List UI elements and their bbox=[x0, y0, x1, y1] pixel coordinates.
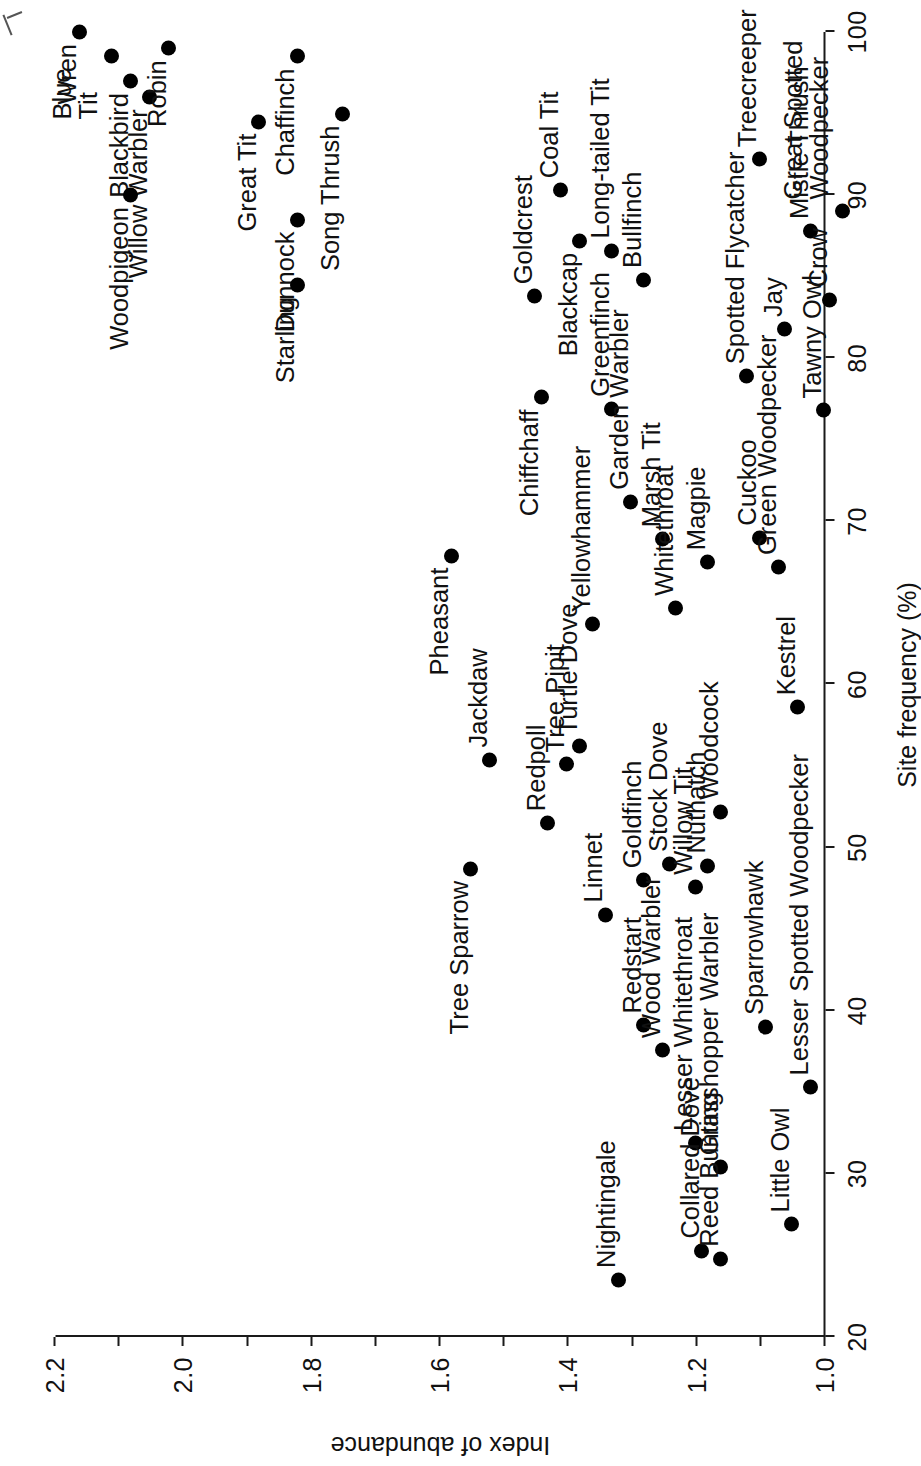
x-tick-label: 100 bbox=[842, 10, 871, 53]
y-tick-label: 1.6 bbox=[426, 1357, 455, 1393]
y-tick bbox=[53, 1337, 55, 1346]
x-tick-label: 20 bbox=[842, 1323, 871, 1352]
data-point-label: Linnet bbox=[580, 833, 606, 902]
data-point-label: Nightingale bbox=[593, 1140, 619, 1268]
data-point-label: Goldfinch bbox=[619, 761, 645, 869]
data-point-label: Stock Dove bbox=[644, 722, 670, 852]
data-point bbox=[597, 907, 612, 922]
data-point bbox=[572, 739, 587, 754]
y-tick bbox=[631, 1337, 633, 1346]
data-point-label: Little Owl bbox=[766, 1108, 792, 1213]
data-point-label: Blackcap bbox=[555, 253, 581, 356]
data-point-label: Robin bbox=[144, 60, 170, 127]
y-tick bbox=[374, 1337, 376, 1346]
data-point bbox=[539, 816, 554, 831]
y-tick bbox=[181, 1337, 183, 1346]
data-point bbox=[835, 204, 850, 219]
data-point-label: Great Tit bbox=[234, 134, 260, 232]
y-tick-label: 1.8 bbox=[297, 1357, 326, 1393]
y-tick-label: 2.2 bbox=[41, 1357, 70, 1393]
x-tick bbox=[825, 519, 834, 521]
data-point bbox=[668, 600, 683, 615]
data-point bbox=[289, 212, 304, 227]
data-point-label: Whitethroat bbox=[651, 465, 677, 595]
data-point-label: Lesser Spotted Woodpecker bbox=[786, 754, 812, 1075]
data-point bbox=[443, 548, 458, 563]
data-point-label: Tawny Owl bbox=[798, 275, 824, 398]
data-point-label: Yellowhammer bbox=[567, 446, 593, 612]
data-point bbox=[161, 41, 176, 56]
data-point-label: Great SpottedWoodpecker bbox=[779, 41, 831, 200]
data-point bbox=[251, 114, 266, 129]
y-tick bbox=[566, 1337, 568, 1346]
y-axis-title: Index of abundance bbox=[330, 1431, 550, 1460]
y-tick bbox=[759, 1337, 761, 1346]
data-point-label: Woodpigeon bbox=[105, 207, 131, 350]
data-point-label: Wood Warbler bbox=[638, 876, 664, 1038]
y-tick-label: 1.4 bbox=[554, 1357, 583, 1393]
data-point bbox=[713, 1251, 728, 1266]
data-point-label: Starling bbox=[272, 297, 298, 383]
data-point bbox=[815, 403, 830, 418]
x-tick bbox=[825, 846, 834, 848]
x-tick bbox=[825, 30, 834, 32]
data-point bbox=[655, 1042, 670, 1057]
data-point-label: Kestrel bbox=[773, 616, 799, 695]
data-point bbox=[462, 861, 477, 876]
data-point bbox=[584, 617, 599, 632]
scan-artifact-mark-2 bbox=[6, 11, 22, 19]
data-point bbox=[803, 1080, 818, 1095]
data-point bbox=[610, 1272, 625, 1287]
data-point-label: BlueTit bbox=[48, 68, 100, 119]
y-tick bbox=[117, 1337, 119, 1346]
data-point-label: Garden Warbler bbox=[606, 309, 632, 489]
data-point-label: Bullfinch bbox=[619, 172, 645, 268]
x-tick-label: 50 bbox=[842, 833, 871, 862]
data-point-label: Redpoll bbox=[523, 725, 549, 811]
data-point-label: Song Thrush bbox=[317, 126, 343, 272]
x-axis-title: Site frequency (%) bbox=[892, 582, 921, 788]
y-tick bbox=[823, 1337, 825, 1346]
y-tick bbox=[502, 1337, 504, 1346]
plot-area: 2030405060708090100 1.01.21.41.61.82.02.… bbox=[55, 32, 825, 1337]
data-point bbox=[103, 49, 118, 64]
y-tick bbox=[246, 1337, 248, 1346]
y-tick-label: 1.0 bbox=[811, 1357, 840, 1393]
data-point bbox=[71, 25, 86, 40]
y-tick bbox=[438, 1337, 440, 1346]
x-tick bbox=[825, 1335, 834, 1337]
x-tick bbox=[825, 683, 834, 685]
x-tick-label: 70 bbox=[842, 507, 871, 536]
data-point bbox=[623, 494, 638, 509]
data-point-label: Goldcrest bbox=[510, 175, 536, 284]
x-tick-label: 80 bbox=[842, 344, 871, 373]
data-point bbox=[770, 560, 785, 575]
data-point-label: Green Woodpecker bbox=[754, 334, 780, 555]
x-tick-label: 60 bbox=[842, 670, 871, 699]
data-point bbox=[604, 243, 619, 258]
data-point-label: Spotted Flycatcher bbox=[721, 152, 747, 365]
data-point-label: Chaffinch bbox=[272, 68, 298, 175]
data-point bbox=[790, 700, 805, 715]
data-point-label: Woodcock bbox=[696, 681, 722, 800]
data-point bbox=[334, 106, 349, 121]
data-point-label: Reed Bunting bbox=[696, 1092, 722, 1247]
data-point-label: Jay bbox=[760, 277, 786, 317]
y-tick bbox=[310, 1337, 312, 1346]
data-point-label: Turtle Dove bbox=[555, 604, 581, 735]
x-tick-label: 30 bbox=[842, 1159, 871, 1188]
data-point-label: Jackdaw bbox=[465, 648, 491, 747]
data-point bbox=[700, 858, 715, 873]
data-point bbox=[738, 369, 753, 384]
data-point-label: Sparrowhawk bbox=[741, 861, 767, 1015]
y-tick bbox=[695, 1337, 697, 1346]
x-tick bbox=[825, 1172, 834, 1174]
data-point bbox=[289, 49, 304, 64]
data-point-label: Coal Tit bbox=[535, 92, 561, 178]
data-point bbox=[533, 390, 548, 405]
data-point-label: Long-tailed Tit bbox=[587, 78, 613, 238]
x-tick-label: 40 bbox=[842, 996, 871, 1025]
data-point bbox=[482, 752, 497, 767]
